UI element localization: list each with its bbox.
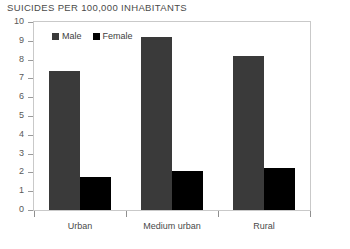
x-axis-separator-tick bbox=[126, 211, 127, 217]
bar-rural-female[interactable] bbox=[264, 168, 295, 210]
legend-label: Male bbox=[62, 31, 82, 41]
x-axis-edge-tick bbox=[34, 211, 35, 217]
bar-urban-male[interactable] bbox=[49, 71, 80, 210]
x-axis-label-rural: Rural bbox=[253, 221, 275, 231]
y-axis-tick-label: 7 bbox=[19, 72, 24, 82]
y-axis-tick-mark bbox=[28, 135, 33, 136]
y-axis-tick-mark bbox=[28, 97, 33, 98]
legend-label: Female bbox=[103, 31, 133, 41]
legend-item-male[interactable]: Male bbox=[52, 31, 82, 41]
y-axis-tick-label: 6 bbox=[19, 91, 24, 101]
y-axis-tick-label: 4 bbox=[19, 129, 24, 139]
x-axis-label-urban: Urban bbox=[68, 221, 93, 231]
bar-rural-male[interactable] bbox=[233, 56, 264, 210]
y-axis-tick-label: 0 bbox=[19, 204, 24, 214]
x-axis-separator-tick bbox=[218, 211, 219, 217]
bar-medium-urban-female[interactable] bbox=[172, 171, 203, 210]
y-axis-tick-label: 1 bbox=[19, 185, 24, 195]
y-axis-tick-mark bbox=[28, 41, 33, 42]
plot-area bbox=[34, 22, 310, 210]
y-axis-tick-label: 2 bbox=[19, 166, 24, 176]
x-axis: UrbanMedium urbanRural bbox=[33, 211, 311, 249]
x-axis-label-medium-urban: Medium urban bbox=[143, 221, 201, 231]
y-axis-tick-label: 5 bbox=[19, 110, 24, 120]
legend-item-female[interactable]: Female bbox=[93, 31, 133, 41]
y-axis-tick-label: 10 bbox=[14, 16, 24, 26]
y-axis-tick-label: 9 bbox=[19, 35, 24, 45]
bar-medium-urban-male[interactable] bbox=[141, 37, 172, 210]
y-axis-tick-mark bbox=[28, 116, 33, 117]
bar-group bbox=[218, 22, 310, 210]
legend-swatch-icon bbox=[93, 33, 100, 40]
y-axis-tick-mark bbox=[28, 172, 33, 173]
chart-title: SUICIDES PER 100,000 INHABITANTS bbox=[7, 2, 187, 13]
y-axis-tick-mark bbox=[28, 22, 33, 23]
bar-urban-female[interactable] bbox=[80, 177, 111, 210]
legend-swatch-icon bbox=[52, 33, 59, 40]
y-axis-tick-label: 8 bbox=[19, 54, 24, 64]
bar-chart: SUICIDES PER 100,000 INHABITANTS 1098765… bbox=[0, 0, 350, 249]
y-axis: 109876543210 bbox=[0, 21, 33, 211]
y-axis-tick-mark bbox=[28, 60, 33, 61]
x-axis-edge-tick bbox=[310, 211, 311, 217]
bar-group bbox=[34, 22, 126, 210]
y-axis-tick-label: 3 bbox=[19, 148, 24, 158]
y-axis-tick-mark bbox=[28, 78, 33, 79]
y-axis-tick-mark bbox=[28, 191, 33, 192]
chart-legend: MaleFemale bbox=[52, 31, 133, 41]
bar-group bbox=[126, 22, 218, 210]
y-axis-tick-mark bbox=[28, 154, 33, 155]
